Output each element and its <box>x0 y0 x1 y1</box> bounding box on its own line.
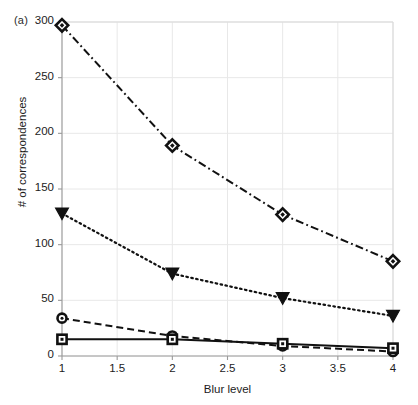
data-point-marker-diamond <box>276 208 288 220</box>
data-point-marker-circle <box>58 314 67 323</box>
data-point-marker-square <box>388 344 397 353</box>
grid-lines <box>62 22 393 356</box>
plot-area <box>0 0 418 405</box>
data-point-marker-diamond <box>387 255 399 267</box>
data-point-marker-square <box>168 335 177 344</box>
chart-figure: (a) # of correspondences Blur level 0501… <box>0 0 418 405</box>
axis-lines <box>58 22 393 360</box>
data-point-marker-square <box>57 335 66 344</box>
data-point-marker-triangle-down <box>56 208 69 220</box>
data-point-marker-triangle-down <box>276 293 289 305</box>
data-point-marker-square <box>278 339 287 348</box>
